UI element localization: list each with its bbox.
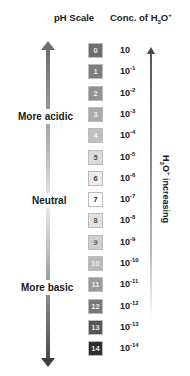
conc-exponent: -6 [130,172,135,178]
concentration-value: 10-8 [120,215,135,225]
conc-base: 10 [120,194,130,204]
concentration-value: 10-10 [120,258,139,268]
neutral-label: Neutral [32,193,66,208]
vlabel-suffix: increasing [161,175,171,223]
concentration-value: 10-11 [120,279,138,289]
conc-exponent: -13 [130,321,139,327]
concentration-value: 10 [120,45,130,55]
conc-exponent: -10 [130,257,139,263]
conc-base: 10 [120,322,130,332]
conc-base: 10 [120,215,130,225]
conc-exponent: -7 [130,193,135,199]
ph-box: 12 [88,299,103,314]
conc-exponent: -11 [130,278,138,284]
concentration-value: 10-4 [120,130,135,140]
ph-box: 4 [88,128,103,143]
concentration-value: 10-9 [120,237,135,247]
conc-base: 10 [120,173,130,183]
ph-box: 1 [88,64,103,79]
concentration-value: 10-6 [120,173,135,183]
concentration-value: 10-5 [120,152,135,162]
conc-base: 10 [120,279,130,289]
conc-exponent: -3 [130,108,135,114]
ph-box: 6 [88,171,103,186]
concentration-value: 10-13 [120,322,139,332]
conc-base: 10 [120,343,130,353]
conc-exponent: -12 [130,300,139,306]
conc-base: 10 [120,88,130,98]
conc-exponent: -8 [130,214,135,220]
conc-base: 10 [120,66,130,76]
ph-box: 14 [88,341,103,356]
concentration-value: 10-2 [120,88,135,98]
concentration-value: 10-7 [120,194,135,204]
ph-scale-header: pH Scale [54,12,94,23]
ph-box: 3 [88,107,103,122]
more-basic-label: More basic [21,280,73,295]
vlabel-mid: O [161,165,171,172]
conc-base: 10 [120,130,130,140]
conc-header-sup: + [168,12,172,18]
ph-box: 0 [88,43,103,58]
concentration-value: 10-1 [120,66,135,76]
ph-box: 13 [88,320,103,335]
h3o-increasing-arrow [150,47,152,322]
arrow-down-icon [41,358,55,367]
concentration-value: 10-3 [120,109,135,119]
conc-base: 10 [120,45,130,55]
concentration-header: Conc. of H3O+ [110,12,172,23]
conc-base: 10 [120,301,130,311]
ph-box: 10 [88,256,103,271]
ph-box: 7 [88,192,103,207]
conc-exponent: -4 [130,129,135,135]
more-acidic-label: More acidic [18,109,73,124]
conc-exponent: -14 [130,342,139,348]
h3o-increasing-label: H3O+ increasing [161,144,171,234]
conc-base: 10 [120,152,130,162]
concentration-value: 10-14 [120,343,139,353]
arrow-shaft [150,53,152,322]
conc-base: 10 [120,237,130,247]
ph-box: 2 [88,86,103,101]
ph-box: 8 [88,213,103,228]
conc-exponent: -1 [130,65,135,71]
ph-box: 9 [88,235,103,250]
ph-box: 5 [88,150,103,165]
ph-box: 11 [88,277,103,292]
conc-exponent: -5 [130,151,135,157]
conc-header-prefix: Conc. of H [110,12,158,23]
conc-base: 10 [120,109,130,119]
conc-base: 10 [120,258,130,268]
conc-exponent: -2 [130,87,135,93]
concentration-value: 10-12 [120,301,139,311]
conc-exponent: -9 [130,236,135,242]
